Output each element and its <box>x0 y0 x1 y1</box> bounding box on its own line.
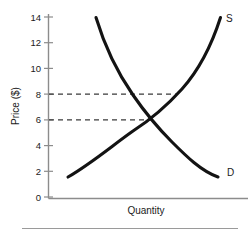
y-axis-title: Price ($) <box>10 87 21 125</box>
y-tick-label-0: 0 <box>36 192 41 203</box>
y-tick-label-14: 14 <box>30 12 41 23</box>
y-tick-label-12: 12 <box>30 37 41 48</box>
y-tick-label-8: 8 <box>36 89 41 100</box>
y-tick-label-4: 4 <box>36 140 41 151</box>
y-tick-label-6: 6 <box>36 114 41 125</box>
y-tick-label-10: 10 <box>30 63 41 74</box>
x-axis-title: Quantity <box>127 205 164 216</box>
demand-curve-label: D <box>227 167 234 178</box>
supply-curve-label: S <box>226 13 233 24</box>
y-tick-label-2: 2 <box>36 166 41 177</box>
supply-demand-chart: 14 12 10 8 6 4 2 0 Price ($) S D Quantit… <box>0 0 251 245</box>
supply-demand-figure: 14 12 10 8 6 4 2 0 Price ($) S D Quantit… <box>0 0 251 245</box>
